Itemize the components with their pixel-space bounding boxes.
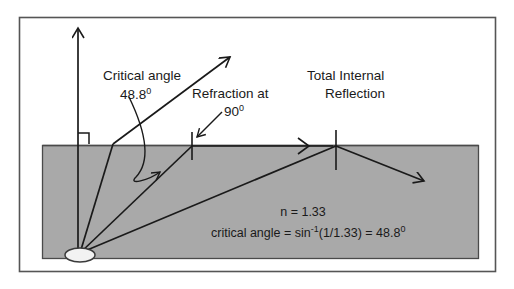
- refractive-index-equation: n = 1.33: [280, 205, 326, 219]
- critical-angle-equation-superscript: 0: [400, 224, 405, 234]
- critical-angle-equation-body: (1/1.33) = 48.8: [319, 226, 401, 240]
- diagram-canvas: Critical angle 48.80 Refraction at 900 T…: [0, 0, 514, 289]
- refraction-degree-superscript: 0: [239, 103, 244, 113]
- critical-angle-equation: critical angle = sin-1(1/1.33) = 48.80: [211, 224, 405, 240]
- critical-angle-degree-superscript: 0: [146, 86, 151, 96]
- total-internal-reflection-figure: Critical angle 48.80 Refraction at 900 T…: [0, 0, 514, 289]
- critical-angle-value: 48.8: [120, 87, 146, 102]
- critical-angle-label-line1: Critical angle: [103, 68, 181, 83]
- critical-angle-equation-exponent: -1: [311, 224, 319, 234]
- light-source: [65, 248, 95, 262]
- critical-angle-equation-prefix: critical angle = sin: [211, 226, 311, 240]
- tir-label-line2: Reflection: [325, 86, 385, 101]
- refraction-angle-value: 90: [224, 104, 239, 119]
- tir-label-line1: Total Internal: [307, 68, 384, 83]
- refraction-label-line1: Refraction at: [192, 86, 269, 101]
